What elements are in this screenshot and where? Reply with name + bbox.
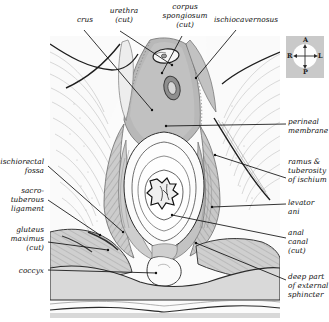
urethra-lumen — [161, 54, 166, 58]
label-perineal-membrane: perineal membrane — [288, 117, 329, 135]
leader-crus-endpoint — [151, 109, 153, 111]
leader-levator-ani-endpoint — [211, 206, 213, 208]
leader-gluteus-maximus-endpoint — [107, 249, 109, 251]
leader-perineal-membrane-endpoint — [165, 125, 167, 127]
anococcygeal-body — [152, 244, 177, 259]
leader-anal-canal-endpoint — [171, 214, 173, 216]
leader-urethra-endpoint — [171, 64, 173, 66]
leader-sacrotuberous-endpoint — [99, 234, 101, 236]
label-levator-ani: levator ani — [288, 198, 329, 216]
label-ischiorectal-fossa: ischiorectal fossa — [0, 157, 44, 175]
leader-ischiocavernosus-endpoint — [195, 77, 197, 79]
label-urethra-cut: urethra (cut) — [102, 6, 146, 24]
label-anal-canal-cut: anal canal (cut) — [288, 228, 329, 256]
leader-ischiorectal-fossa-endpoint — [122, 231, 124, 233]
perineum-illustration — [0, 0, 329, 322]
compass-right: R — [287, 53, 292, 60]
leader-coccyx-endpoint — [155, 272, 157, 274]
compass-anterior: A — [303, 37, 308, 44]
label-sacrotuberous-ligament: sacro- tuberous ligament — [0, 186, 44, 214]
label-crus: crus — [68, 15, 102, 24]
leader-ramus-tuberosity-endpoint — [214, 154, 216, 156]
compass-left: L — [318, 53, 323, 60]
label-coccyx: coccyx — [0, 266, 44, 275]
label-gluteus-maximus-cut: gluteus maximus (cut) — [0, 225, 44, 253]
leader-deep-sphincter-endpoint — [195, 242, 197, 244]
figure-canvas: crusurethra (cut)corpus spongiosum (cut)… — [0, 0, 329, 322]
coccyx-bone — [147, 256, 181, 286]
label-corpus-spongiosum-cut: corpus spongiosum (cut) — [155, 2, 215, 30]
label-ischiocavernosus: ischiocavernosus — [214, 15, 276, 24]
bottom-band — [50, 313, 280, 318]
leader-corpus-spongiosum-endpoint — [161, 72, 163, 74]
label-ramus-tuberosity-ischium: ramus & tuberosity of ischium — [288, 157, 329, 185]
label-deep-part-external-sphincter: deep part of external sphincter — [288, 272, 329, 300]
compass-posterior: P — [303, 69, 308, 76]
orientation-compass: A P R L — [286, 36, 324, 78]
